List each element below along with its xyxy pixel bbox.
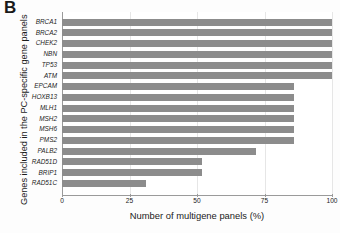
bar-rad51c bbox=[62, 180, 146, 187]
bar-msh6 bbox=[62, 126, 294, 133]
bar-epcam bbox=[62, 83, 294, 90]
bar-row bbox=[62, 103, 332, 114]
bar-hoxb13 bbox=[62, 94, 294, 101]
bar-atm bbox=[62, 72, 332, 79]
bar-row bbox=[62, 135, 332, 146]
x-tick-label-0: 0 bbox=[60, 197, 64, 204]
y-tick-tp53: TP53 bbox=[42, 60, 57, 71]
bar-tp53 bbox=[62, 62, 332, 69]
y-tick-msh2: MSH2 bbox=[39, 114, 57, 125]
figure-panel: B Genes included in the PC-specific gene… bbox=[0, 0, 340, 233]
bar-row bbox=[62, 28, 332, 39]
x-tick-mark-100 bbox=[332, 194, 333, 197]
y-tick-brca2: BRCA2 bbox=[36, 28, 57, 39]
bar-row bbox=[62, 71, 332, 82]
y-tick-brip1: BRIP1 bbox=[39, 168, 57, 179]
x-axis-title: Number of multigene panels (%) bbox=[62, 210, 332, 221]
bar-series bbox=[62, 12, 332, 195]
y-tick-rad51d: RAD51D bbox=[32, 157, 57, 168]
bar-row bbox=[62, 124, 332, 135]
y-tick-nbn: NBN bbox=[44, 49, 58, 60]
bar-row bbox=[62, 38, 332, 49]
x-tick-mark-75 bbox=[265, 194, 266, 197]
y-tick-msh6: MSH6 bbox=[39, 124, 57, 135]
plot-area bbox=[62, 12, 332, 195]
x-tick-label-25: 25 bbox=[126, 197, 133, 204]
x-tick-mark-0 bbox=[62, 194, 63, 197]
bar-pms2 bbox=[62, 137, 294, 144]
bar-nbn bbox=[62, 51, 332, 58]
y-tick-mlh1: MLH1 bbox=[40, 103, 57, 114]
x-axis-tick-labels: 0255075100 bbox=[62, 197, 332, 209]
bar-row bbox=[62, 49, 332, 60]
y-tick-palb2: PALB2 bbox=[38, 146, 57, 157]
bar-row bbox=[62, 146, 332, 157]
bar-row bbox=[62, 157, 332, 168]
y-axis-tick-labels: BRCA1BRCA2CHEK2NBNTP53ATMEPCAMHOXB13MLH1… bbox=[0, 12, 60, 195]
bar-row bbox=[62, 81, 332, 92]
y-tick-pms2: PMS2 bbox=[40, 135, 57, 146]
bar-palb2 bbox=[62, 148, 256, 155]
y-tick-atm: ATM bbox=[44, 71, 57, 82]
y-tick-chek2: CHEK2 bbox=[36, 38, 57, 49]
x-tick-label-100: 100 bbox=[326, 197, 337, 204]
gridline-100 bbox=[332, 12, 333, 195]
bar-row bbox=[62, 17, 332, 28]
bar-row bbox=[62, 178, 332, 189]
bar-rad51d bbox=[62, 158, 202, 165]
bar-brca2 bbox=[62, 29, 332, 36]
y-tick-brca1: BRCA1 bbox=[36, 17, 57, 28]
bar-msh2 bbox=[62, 115, 294, 122]
bar-row bbox=[62, 167, 332, 178]
bar-chek2 bbox=[62, 40, 332, 47]
x-tick-mark-25 bbox=[130, 194, 131, 197]
bar-mlh1 bbox=[62, 105, 294, 112]
bar-row bbox=[62, 60, 332, 71]
bar-row bbox=[62, 114, 332, 125]
x-tick-mark-50 bbox=[197, 194, 198, 197]
x-tick-label-75: 75 bbox=[261, 197, 268, 204]
bar-brca1 bbox=[62, 19, 332, 26]
bar-brip1 bbox=[62, 169, 202, 176]
y-tick-rad51c: RAD51C bbox=[32, 178, 57, 189]
y-tick-epcam: EPCAM bbox=[34, 81, 57, 92]
bar-row bbox=[62, 92, 332, 103]
x-tick-label-50: 50 bbox=[193, 197, 200, 204]
y-tick-hoxb13: HOXB13 bbox=[32, 92, 57, 103]
